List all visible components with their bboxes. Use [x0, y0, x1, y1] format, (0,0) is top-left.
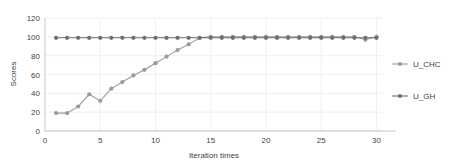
data-point: [175, 48, 179, 52]
data-point: [153, 61, 157, 65]
data-point: [275, 36, 279, 40]
x-tick-label: 20: [262, 136, 271, 145]
series-group: [54, 35, 379, 115]
data-point: [120, 80, 124, 84]
legend-marker-u_gh: [398, 94, 402, 98]
y-tick-labels: 020406080100120: [27, 14, 41, 136]
data-point: [131, 36, 135, 40]
data-point: [374, 36, 378, 40]
x-tick-label: 0: [43, 136, 48, 145]
data-point: [242, 36, 246, 40]
data-point: [341, 36, 345, 40]
chart-container: 020406080100120 051015202530 U_CHCU_GH S…: [0, 0, 454, 162]
data-point: [209, 36, 213, 40]
y-tick-label: 20: [31, 108, 40, 117]
data-point: [142, 36, 146, 40]
data-point: [352, 36, 356, 40]
data-point: [109, 36, 113, 40]
data-point: [120, 36, 124, 40]
data-point: [76, 104, 80, 108]
legend: U_CHCU_GH: [392, 60, 441, 101]
x-tick-label: 25: [317, 136, 326, 145]
data-point: [175, 36, 179, 40]
data-point: [98, 36, 102, 40]
data-point: [253, 36, 257, 40]
y-tick-label: 100: [27, 33, 41, 42]
data-point: [297, 36, 301, 40]
y-tick-label: 60: [31, 71, 40, 80]
data-point: [198, 36, 202, 40]
data-point: [87, 92, 91, 96]
legend-label-u_gh: U_GH: [413, 92, 435, 101]
x-tick-labels: 051015202530: [43, 136, 382, 145]
y-tick-label: 80: [31, 52, 40, 61]
data-point: [142, 68, 146, 72]
data-point: [231, 36, 235, 40]
data-point: [164, 36, 168, 40]
data-point: [65, 36, 69, 40]
data-point: [153, 36, 157, 40]
data-point: [54, 111, 58, 115]
data-point: [164, 55, 168, 59]
data-point: [98, 99, 102, 103]
data-point: [220, 36, 224, 40]
series-line-u_chc: [56, 37, 376, 113]
x-axis-title: Iteration times: [189, 151, 239, 160]
data-point: [319, 36, 323, 40]
data-point: [187, 42, 191, 46]
data-point: [65, 111, 69, 115]
line-chart: 020406080100120 051015202530 U_CHCU_GH S…: [0, 0, 454, 162]
data-point: [286, 36, 290, 40]
y-tick-label: 0: [36, 127, 41, 136]
data-point: [54, 36, 58, 40]
y-axis-title: Scores: [9, 62, 18, 87]
y-tick-label: 40: [31, 89, 40, 98]
data-point: [109, 87, 113, 91]
data-point: [264, 36, 268, 40]
x-tick-label: 15: [206, 136, 215, 145]
x-tick-label: 5: [98, 136, 103, 145]
data-point: [330, 36, 334, 40]
data-point: [308, 36, 312, 40]
x-tick-label: 10: [151, 136, 160, 145]
data-point: [363, 36, 367, 40]
legend-marker-u_chc: [398, 62, 402, 66]
data-point: [87, 36, 91, 40]
legend-label-u_chc: U_CHC: [413, 60, 441, 69]
y-tick-label: 120: [27, 14, 41, 23]
data-point: [76, 36, 80, 40]
data-point: [131, 73, 135, 77]
data-point: [187, 36, 191, 40]
x-tick-label: 30: [372, 136, 381, 145]
